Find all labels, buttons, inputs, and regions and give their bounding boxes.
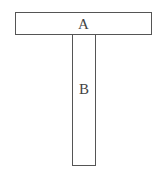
rectangle-a: A [15,12,152,35]
label-b: B [79,82,89,97]
label-a: A [78,17,89,32]
rectangle-b: B [72,34,96,166]
